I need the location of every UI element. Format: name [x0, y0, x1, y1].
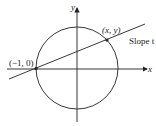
point-left — [34, 67, 37, 70]
point-right — [105, 38, 108, 41]
point-left-label: (−1, 0) — [9, 58, 34, 68]
point-right-label: (x, y) — [102, 25, 120, 35]
unit-circle-diagram: y x (−1, 0) (x, y) Slope t — [0, 0, 156, 126]
x-axis-label: x — [147, 64, 152, 74]
slope-label: Slope t — [129, 36, 155, 46]
y-axis-label: y — [70, 2, 75, 12]
